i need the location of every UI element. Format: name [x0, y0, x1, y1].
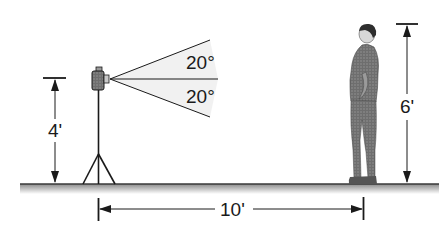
distance-label: 10'	[220, 199, 245, 220]
lower-angle-label: 20°	[186, 87, 215, 106]
upper-angle-label: 20°	[186, 53, 215, 72]
ground	[20, 184, 439, 194]
camera-icon	[92, 67, 109, 90]
diagram-canvas	[0, 0, 445, 225]
person-figure	[349, 24, 379, 184]
tripod	[83, 89, 115, 184]
camera-height-label: 4'	[48, 120, 62, 141]
person-height-label: 6'	[400, 96, 414, 117]
